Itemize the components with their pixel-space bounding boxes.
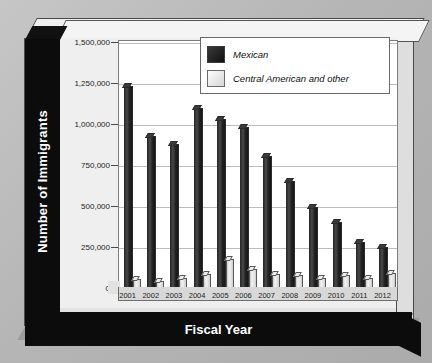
- y-tick-label: 1,250,000: [74, 79, 110, 88]
- y-tick-label: 500,000: [81, 202, 110, 211]
- y-tick-label: 750,000: [81, 161, 110, 170]
- bar-mexican: [170, 144, 179, 288]
- x-tick-label: 2007: [255, 291, 278, 309]
- x-tick-label: 2012: [371, 291, 394, 309]
- bar-group: [142, 41, 165, 288]
- y-tick-mark: [111, 42, 118, 43]
- x-tick-label: 2010: [325, 291, 348, 309]
- legend-swatch-icon-mexican: [207, 46, 225, 63]
- bar-mexican: [240, 127, 249, 288]
- y-tick-mark: [111, 124, 118, 125]
- x-tick-label: 2006: [232, 291, 255, 309]
- legend-swatch-icon-central-american: [207, 70, 225, 87]
- bar-top-face: [354, 239, 364, 244]
- bar-mexican: [263, 156, 272, 288]
- y-tick-label: 1,500,000: [74, 38, 110, 47]
- bar-central-american: [249, 269, 257, 288]
- legend-label-central-american: Central American and other: [233, 73, 349, 84]
- bar-top-face: [215, 116, 225, 121]
- x-tick-label: 2002: [139, 291, 162, 309]
- bar-mexican: [333, 222, 342, 288]
- bar-top-face: [247, 266, 256, 271]
- y-tick-label: 250,000: [81, 243, 110, 252]
- legend-entry-mexican: Mexican: [207, 42, 383, 66]
- y-axis-title-band: Number of Immigrants: [25, 39, 60, 324]
- bar-chart-figure: Number of Immigrants 1,500,000 1,250,000…: [0, 0, 432, 363]
- bar-top-face: [270, 271, 279, 276]
- bar-mexican: [147, 136, 156, 288]
- chart-legend: Mexican Central American and other: [200, 37, 390, 94]
- x-tick-label: 2005: [209, 291, 232, 309]
- chart-3d-right-panel: [396, 20, 414, 323]
- y-tick-mark: [111, 206, 118, 207]
- bar-top-face: [307, 204, 317, 209]
- bar-top-face: [122, 83, 132, 88]
- bar-mexican: [379, 247, 388, 288]
- bar-top-face: [386, 270, 395, 275]
- bar-mexican: [217, 119, 226, 288]
- y-tick-mark: [111, 165, 118, 166]
- bar-top-face: [331, 219, 341, 224]
- bar-top-face: [177, 275, 186, 280]
- y-tick-mark: [111, 83, 118, 84]
- x-axis-title: Fiscal Year: [185, 322, 253, 337]
- bar-central-american: [203, 274, 211, 288]
- x-tick-label: 2004: [186, 291, 209, 309]
- bar-top-face: [284, 178, 294, 183]
- bar-top-face: [224, 256, 233, 261]
- y-tick-label: 1,000,000: [74, 120, 110, 129]
- bar-top-face: [145, 133, 155, 138]
- bar-group: [165, 41, 188, 288]
- y-axis-ticks: 1,500,000 1,250,000 1,000,000 750,000 50…: [60, 38, 118, 308]
- x-tick-label: 2003: [162, 291, 185, 309]
- bar-top-face: [340, 272, 349, 277]
- legend-label-mexican: Mexican: [233, 49, 268, 60]
- bar-top-face: [238, 124, 248, 129]
- bar-mexican: [124, 86, 133, 288]
- bar-central-american: [226, 259, 234, 288]
- bar-top-face: [293, 272, 302, 277]
- y-tick-mark: [111, 247, 118, 248]
- bar-top-face: [201, 271, 210, 276]
- bar-top-face: [261, 153, 271, 158]
- y-axis-title: Number of Immigrants: [35, 110, 50, 253]
- x-axis-ticks: 2001200220032004200520062007200820092010…: [118, 291, 396, 309]
- x-tick-label: 2001: [116, 291, 139, 309]
- bar-top-face: [192, 105, 202, 110]
- bar-central-american: [388, 273, 396, 288]
- bar-mexican: [356, 242, 365, 288]
- x-tick-label: 2009: [301, 291, 324, 309]
- x-tick-label: 2011: [348, 291, 371, 309]
- bar-central-american: [272, 274, 280, 288]
- bar-mexican: [286, 181, 295, 288]
- bar-mexican: [194, 108, 203, 288]
- legend-entry-central-american: Central American and other: [207, 66, 383, 90]
- bar-top-face: [131, 276, 140, 281]
- bar-top-face: [168, 141, 178, 146]
- bar-top-face: [316, 275, 325, 280]
- bar-top-face: [377, 244, 387, 249]
- bar-top-face: [154, 278, 163, 283]
- x-tick-label: 2008: [278, 291, 301, 309]
- bar-group: [119, 41, 142, 288]
- x-axis-title-band: Fiscal Year: [25, 312, 412, 346]
